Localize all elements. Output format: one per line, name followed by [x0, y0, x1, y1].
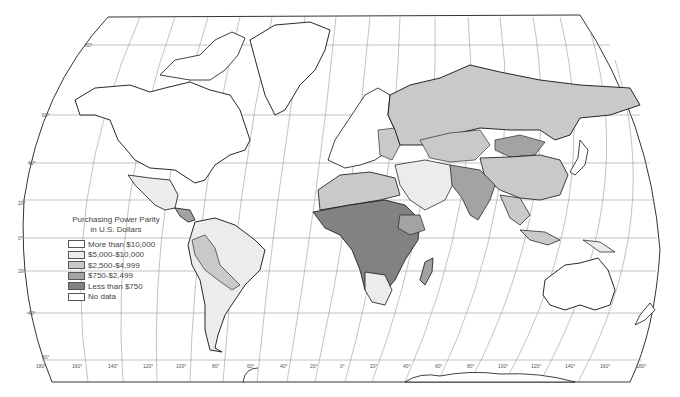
- legend-swatch: [68, 240, 85, 248]
- legend-swatch: [68, 282, 85, 290]
- map-legend: Purchasing Power Parity in U.S. Dollars …: [60, 215, 172, 302]
- svg-text:20°: 20°: [370, 363, 378, 369]
- svg-text:100°: 100°: [498, 363, 508, 369]
- svg-text:80°: 80°: [467, 363, 475, 369]
- legend-label: More than $10,000: [88, 240, 155, 249]
- svg-text:180°: 180°: [36, 363, 46, 369]
- legend-label: Less than $750: [88, 282, 143, 291]
- svg-text:140°: 140°: [565, 363, 575, 369]
- svg-text:80°: 80°: [212, 363, 220, 369]
- svg-text:180°: 180°: [636, 363, 646, 369]
- legend-swatch: [68, 293, 85, 301]
- legend-items: More than $10,000 $5,000-$10,000 $2,500-…: [68, 239, 172, 302]
- legend-label: No data: [88, 292, 116, 301]
- svg-text:60°: 60°: [42, 112, 50, 118]
- svg-text:0°: 0°: [18, 235, 23, 241]
- svg-text:0°: 0°: [340, 363, 345, 369]
- legend-item: $5,000-$10,000: [68, 250, 172, 261]
- legend-item: $750-$2,499: [68, 271, 172, 282]
- svg-text:40°: 40°: [403, 363, 411, 369]
- legend-item: No data: [68, 292, 172, 303]
- legend-item: Less than $750: [68, 281, 172, 292]
- svg-text:160°: 160°: [600, 363, 610, 369]
- svg-text:40°: 40°: [28, 310, 36, 316]
- svg-text:60°: 60°: [247, 363, 255, 369]
- svg-text:60°: 60°: [435, 363, 443, 369]
- svg-text:20°: 20°: [310, 363, 318, 369]
- svg-text:120°: 120°: [143, 363, 153, 369]
- svg-text:160°: 160°: [72, 363, 82, 369]
- legend-swatch: [68, 251, 85, 259]
- legend-label: $750-$2,499: [88, 271, 133, 280]
- legend-title: Purchasing Power Parity in U.S. Dollars: [60, 215, 172, 235]
- legend-swatch: [68, 261, 85, 269]
- legend-item: More than $10,000: [68, 239, 172, 250]
- svg-text:100°: 100°: [176, 363, 186, 369]
- legend-title-line1: Purchasing Power Parity: [60, 215, 172, 225]
- legend-label: $2,500-$4,999: [88, 261, 140, 270]
- svg-text:140°: 140°: [108, 363, 118, 369]
- legend-item: $2,500-$4,999: [68, 260, 172, 271]
- svg-text:60°: 60°: [42, 354, 50, 360]
- svg-text:20°: 20°: [18, 200, 26, 206]
- svg-text:20°: 20°: [18, 268, 26, 274]
- svg-text:40°: 40°: [28, 160, 36, 166]
- world-map: 80° 60° 40° 20° 0° 20° 40° 60° 180° 160°…: [0, 0, 680, 397]
- svg-text:120°: 120°: [531, 363, 541, 369]
- legend-label: $5,000-$10,000: [88, 250, 144, 259]
- legend-title-line2: in U.S. Dollars: [60, 225, 172, 235]
- svg-text:80°: 80°: [85, 42, 93, 48]
- svg-text:40°: 40°: [280, 363, 288, 369]
- legend-swatch: [68, 272, 85, 280]
